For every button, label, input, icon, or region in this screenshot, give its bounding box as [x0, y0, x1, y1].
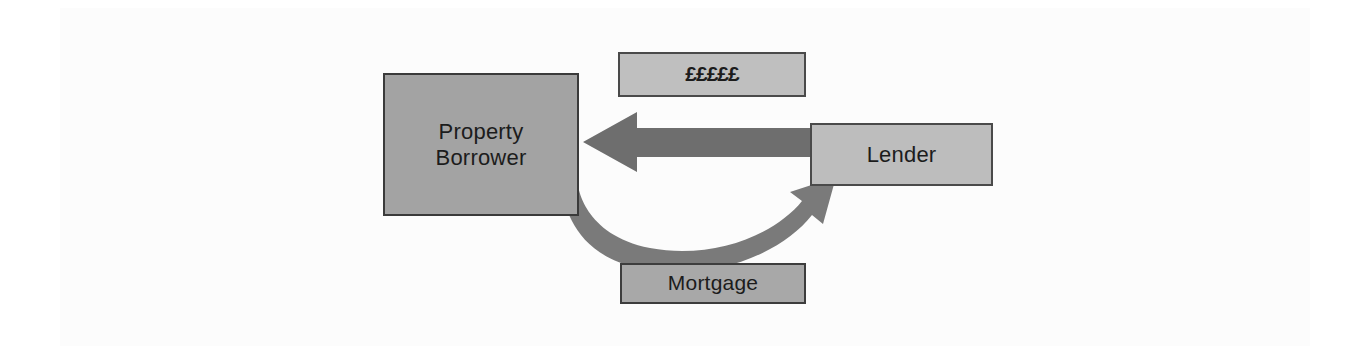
node-money-label[interactable]: £££££	[618, 52, 806, 97]
node-property-borrower-label-line2: Borrower	[436, 145, 527, 171]
node-mortgage-label[interactable]: Mortgage	[620, 263, 806, 304]
node-mortgage-label-text: Mortgage	[668, 271, 758, 296]
node-lender-label: Lender	[867, 142, 937, 168]
node-property-borrower[interactable]: Property Borrower	[383, 73, 579, 216]
node-lender[interactable]: Lender	[810, 123, 993, 186]
node-money-label-text: £££££	[685, 62, 738, 87]
node-property-borrower-label-line1: Property	[436, 119, 527, 145]
diagram-canvas: Property Borrower Lender £££££ Mortgage	[0, 0, 1372, 354]
